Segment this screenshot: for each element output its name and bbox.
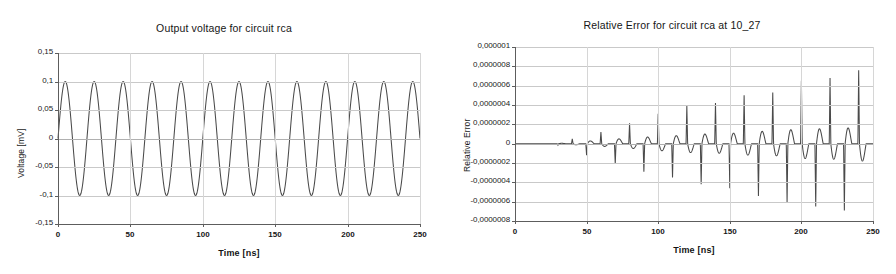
figure-container: Output voltage for circuit rca Voltage [… [0,0,896,274]
gridline-horizontal [515,163,873,164]
y-tick-label: 0 [506,138,510,147]
gridline-vertical [420,53,421,224]
y-tick-label: 0,0000008 [473,60,510,69]
plot-area-right [515,47,873,221]
y-tick-label: 0 [49,133,53,142]
x-tick-label: 100 [638,227,678,236]
relative-error-waveform [515,47,873,221]
y-axis-label-left: Voltage [mV] [16,129,26,178]
x-tick-label: 150 [710,227,750,236]
chart-title-right: Relative Error for circuit rca at 10_27 [448,19,896,31]
gridline-vertical [730,47,731,221]
gridline-horizontal [58,110,420,111]
gridline-vertical [658,47,659,221]
y-tick-label: 0,0000004 [473,99,510,108]
gridline-horizontal [58,167,420,168]
gridline-horizontal [515,47,873,48]
gridline-horizontal [58,53,420,54]
gridline-vertical [873,47,874,221]
x-tick-label: 50 [110,230,150,239]
x-tick-label: 200 [328,230,368,239]
gridline-vertical [203,53,204,224]
gridline-horizontal [515,124,873,125]
chart-title-left: Output voltage for circuit rca [0,22,448,34]
x-tick-label: 0 [495,227,535,236]
gridline-horizontal [515,144,873,145]
x-tick-label: 150 [255,230,295,239]
y-tick-label: 0,0000006 [473,80,510,89]
y-tick-label: -0,1 [40,190,53,199]
y-tick-label: 0,15 [38,47,53,56]
chart-panel-output-voltage: Output voltage for circuit rca Voltage [… [0,0,448,274]
x-tick-label: 0 [38,230,78,239]
gridline-horizontal [58,82,420,83]
x-axis-label-left: Time [ns] [58,248,420,258]
y-tick-label: -0,0000002 [471,157,510,166]
x-tick-label: 250 [400,230,440,239]
x-tick-label: 50 [567,227,607,236]
gridline-horizontal [515,66,873,67]
gridline-horizontal [515,86,873,87]
x-tick-mark [873,221,874,224]
gridline-vertical [587,47,588,221]
gridline-vertical [348,53,349,224]
gridline-horizontal [58,196,420,197]
gridline-horizontal [515,105,873,106]
x-tick-label: 100 [183,230,223,239]
y-axis-line [58,53,59,224]
y-tick-label: 0,1 [42,76,53,85]
gridline-vertical [275,53,276,224]
gridline-vertical [130,53,131,224]
x-tick-label: 250 [853,227,893,236]
y-tick-label: -0,15 [35,218,53,227]
gridline-horizontal [515,182,873,183]
x-tick-label: 200 [781,227,821,236]
gridline-horizontal [58,139,420,140]
x-axis-label-right: Time [ns] [515,245,873,255]
y-tick-label: 0,000001 [477,41,510,50]
y-tick-label: -0,05 [35,161,53,170]
x-tick-mark [420,224,421,227]
gridline-vertical [801,47,802,221]
y-tick-label: -0,0000004 [471,176,510,185]
y-tick-label: -0,0000008 [471,215,510,224]
y-tick-label: -0,0000006 [471,196,510,205]
y-tick-label: 0,0000002 [473,118,510,127]
chart-panel-relative-error: Relative Error for circuit rca at 10_27 … [448,0,896,274]
y-tick-label: 0,05 [38,104,53,113]
x-axis-line [58,224,420,225]
y-axis-line [515,47,516,221]
x-axis-line [515,221,873,222]
gridline-horizontal [515,202,873,203]
plot-area-left [58,53,420,224]
